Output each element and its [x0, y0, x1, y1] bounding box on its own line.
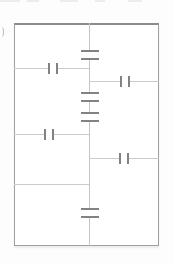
scan-artifact-3 [95, 0, 105, 2]
cap-bus-bottom-plate-top [81, 208, 99, 210]
scan-artifact-1 [27, 0, 39, 2]
cap-upper-left-plate-left [48, 63, 50, 74]
cap-bus-top-plate-top [81, 50, 99, 52]
cap-bus-mid-1-plate-bottom [81, 100, 99, 102]
cap-upper-left-plate-right [56, 63, 58, 74]
cap-bus-mid-1-plate-top [81, 92, 99, 94]
cap-bus-top-plate-bottom [81, 58, 99, 60]
cap-middle-right-plate-right [127, 153, 129, 164]
scan-artifact-2 [60, 0, 78, 2]
cap-upper-right-plate-right [128, 76, 130, 87]
scanned-page [0, 0, 173, 265]
wire-lower-left [14, 184, 89, 185]
cap-bus-mid-2-plate-bottom [81, 120, 99, 122]
schematic-canvas [0, 0, 173, 265]
scan-artifact-0 [0, 0, 20, 2]
cap-bus-mid-2-plate-top [81, 112, 99, 114]
cap-middle-left-plate-left [44, 129, 46, 140]
cap-upper-right-plate-left [120, 76, 122, 87]
cap-middle-left-plate-right [52, 129, 54, 140]
cap-middle-right-plate-left [119, 153, 121, 164]
cropped-character-fragment [0, 27, 4, 37]
cap-bus-bottom-plate-bottom [81, 216, 99, 218]
scan-artifact-4 [128, 0, 142, 2]
